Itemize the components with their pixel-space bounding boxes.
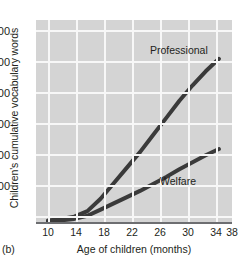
gridline-horizontal [36,30,232,32]
x-tick-label: 18 [89,226,119,238]
x-tick-label: 38 [217,226,246,238]
x-tick-label: 14 [61,226,91,238]
x-tick-label: 22 [117,226,147,238]
figure-panel-b: Children's cumulative vocabulary words 1… [0,0,246,264]
gridline-vertical [132,20,134,222]
gridline-vertical [76,20,78,222]
x-tick-label: 10 [33,226,63,238]
x-axis-line [36,222,232,224]
x-tick-label: 26 [145,226,175,238]
gridline-vertical [48,20,50,222]
series-label-professional: Professional [150,44,208,56]
y-tick-label: 800 [0,87,10,99]
gridline-horizontal [36,185,232,187]
y-tick-label: 400 [0,149,10,161]
x-tick-label: 30 [173,226,203,238]
gridline-horizontal [36,123,232,125]
y-tick-label: 600 [0,118,10,130]
y-tick-label: 1,000 [0,56,10,68]
gridline-horizontal [36,92,232,94]
gridline-horizontal [36,216,232,218]
gridline-horizontal [36,154,232,156]
gridline-vertical [216,20,218,222]
y-tick-label: 1,200 [0,25,10,37]
panel-letter: (b) [2,243,15,255]
gridline-horizontal [36,61,232,63]
gridline-vertical [104,20,106,222]
x-axis-title: Age of children (months) [36,243,232,255]
y-tick-label: 200 [0,180,10,192]
series-label-welfare: Welfare [160,175,196,187]
